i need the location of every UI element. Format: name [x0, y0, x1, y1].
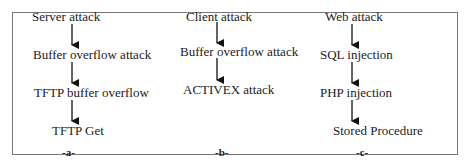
arrows-layer [0, 0, 471, 168]
